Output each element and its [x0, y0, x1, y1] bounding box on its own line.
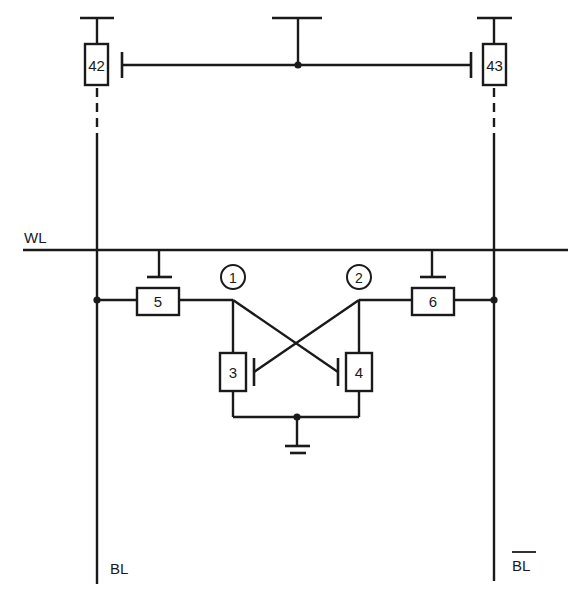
transistor-3-label: 3: [229, 364, 237, 381]
transistor-42-label: 42: [88, 57, 105, 74]
junction-dot: [93, 296, 100, 303]
transistor-5-label: 5: [154, 293, 162, 310]
transistor-6-gate: [420, 250, 446, 277]
circuit-schematic: 42 43 5 6 3 4 1 2 WL BL BL: [0, 0, 582, 599]
transistor-4-label: 4: [355, 364, 363, 381]
junction-dot: [293, 413, 300, 420]
junction-dot: [490, 296, 497, 303]
node-2-label: 2: [355, 270, 363, 286]
bit-line-label: BL: [110, 560, 128, 577]
junction-dots: [93, 61, 497, 420]
cross-node1-to-gate4: [233, 300, 338, 372]
transistor-5-gate: [147, 250, 172, 277]
sram-cell-diagram: 42 43 5 6 3 4 1 2 WL BL BL: [0, 0, 582, 599]
junction-dot: [294, 61, 301, 68]
bit-line-bar-label: BL: [512, 557, 530, 574]
transistor-43-label: 43: [486, 57, 503, 74]
supply-bar-left: [80, 18, 114, 44]
ground-icon: [285, 446, 310, 453]
supply-bar-right: [477, 18, 512, 44]
supply-bar-middle: [272, 18, 322, 65]
node-1-label: 1: [229, 270, 237, 286]
word-line-label: WL: [24, 229, 47, 246]
transistor-6-label: 6: [429, 293, 437, 310]
cross-node2-to-gate3: [254, 300, 359, 372]
